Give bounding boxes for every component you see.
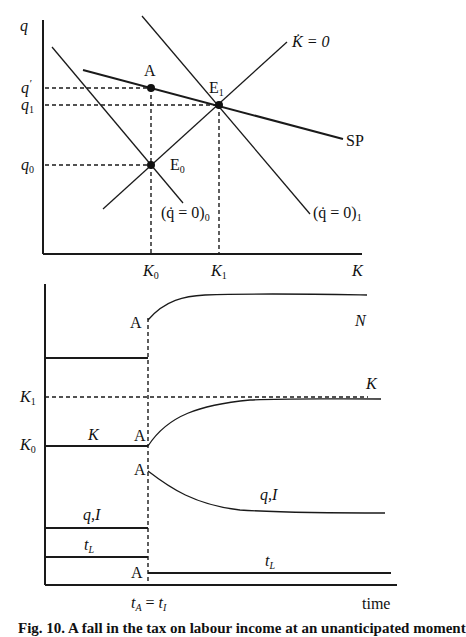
figure-caption: Fig. 10. A fall in the tax on labour inc…: [18, 620, 466, 637]
q0-label: q0: [21, 156, 34, 175]
k-after: [148, 399, 381, 446]
time-path-diagram: A A A A K1 K0 N K K q,I q,I tL tL tA = t…: [19, 284, 397, 613]
point-a-label: A: [144, 62, 156, 79]
k1-time-label: K1: [19, 388, 36, 407]
phase-diagram: q K q′ q1 q0 K0 K1 A E1 E0 K̇ = 0 SP (q̇…: [20, 16, 364, 281]
n-after: [148, 294, 367, 320]
q-dot-zero-0-line: [52, 47, 183, 203]
point-e1: [215, 101, 223, 109]
jump-marker-n: A: [130, 314, 142, 331]
k-dot-zero-line: [103, 42, 287, 209]
k-dot-zero-label: K̇ = 0: [291, 33, 329, 50]
jump-marker-k: A: [134, 427, 146, 444]
k-after-label: K: [365, 375, 378, 392]
k0-label: K0: [142, 262, 159, 281]
point-a: [147, 84, 155, 92]
k1-label: K1: [210, 262, 227, 281]
k-before-label: K: [87, 426, 100, 443]
n-label: N: [354, 312, 367, 329]
point-e0: [147, 161, 155, 169]
jump-marker-qi: A: [134, 461, 146, 478]
tl-before-label: tL: [84, 536, 94, 555]
q-dot-zero-0-label: (q̇ = 0)0: [161, 204, 210, 223]
tl-after-label: tL: [265, 552, 275, 571]
q1-label: q1: [21, 96, 34, 115]
time-axis-label: time: [362, 595, 390, 612]
q-prime-label: q′: [21, 77, 32, 97]
k-axis-label: K: [351, 262, 364, 279]
jump-marker-tl: A: [131, 564, 143, 581]
point-e1-label: E1: [209, 79, 224, 98]
ta-equals-ti-label: tA = tI: [131, 594, 167, 613]
qi-before-label: q,I: [83, 506, 101, 524]
sp-label: SP: [346, 132, 364, 149]
point-e0-label: E0: [170, 156, 185, 175]
k0-time-label: K0: [19, 436, 36, 455]
qi-after-label: q,I: [260, 486, 278, 504]
q-dot-zero-1-label: (q̇ = 0)1: [313, 204, 362, 223]
q-axis-label: q: [20, 17, 28, 35]
